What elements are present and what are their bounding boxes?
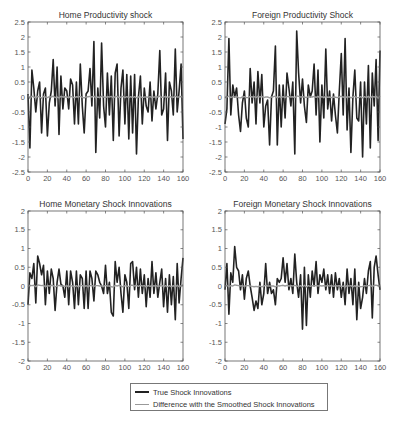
x-tick-label: 20 (240, 363, 248, 372)
x-tick-label: 80 (298, 363, 306, 372)
y-tick-label: -1 (215, 123, 222, 132)
series-true-shock (225, 31, 380, 157)
x-tick-label: 160 (374, 363, 387, 372)
legend-label: True Shock Innovations (153, 388, 232, 397)
x-tick-label: 140 (157, 174, 170, 183)
x-tick-label: 60 (279, 174, 287, 183)
y-tick-label: 1.5 (212, 225, 222, 234)
y-tick-label: 1.5 (212, 48, 222, 57)
legend-line-dark (135, 391, 149, 393)
y-tick-label: 1 (21, 244, 25, 253)
x-tick-label: 20 (43, 174, 51, 183)
x-tick-label: 120 (138, 174, 151, 183)
y-tick-label: -0.5 (12, 108, 25, 117)
legend-item-difference: Difference with the Smoothed Shock Innov… (135, 398, 315, 410)
x-tick-label: 120 (335, 174, 348, 183)
chart-title: Home Monetary Shock Innovations (39, 199, 171, 209)
x-tick-label: 40 (260, 174, 268, 183)
y-tick-label: 0 (218, 93, 222, 102)
y-tick-label: 1.5 (15, 225, 25, 234)
figure-canvas: Home Productivity shock02040608010012014… (0, 0, 394, 423)
y-tick-label: 0.5 (212, 263, 222, 272)
y-tick-label: 2 (21, 207, 25, 216)
legend-label: Difference with the Smoothed Shock Innov… (153, 400, 315, 409)
y-tick-label: -0.5 (12, 300, 25, 309)
series-difference (225, 96, 380, 98)
x-tick-label: 20 (240, 174, 248, 183)
x-tick-label: 0 (223, 363, 227, 372)
x-tick-label: 140 (157, 363, 170, 372)
x-tick-label: 140 (354, 363, 367, 372)
legend-line-gray (135, 404, 149, 405)
y-tick-label: 1 (218, 63, 222, 72)
y-tick-label: 0.5 (15, 263, 25, 272)
y-tick-label: -2.5 (209, 168, 222, 177)
y-tick-label: -2 (215, 153, 222, 162)
y-tick-label: 0 (218, 282, 222, 291)
y-tick-label: 1 (21, 63, 25, 72)
chart-home-monetary: Home Monetary Shock Innovations020406080… (12, 199, 189, 372)
series-true-shock (225, 247, 380, 330)
x-tick-label: 120 (138, 363, 151, 372)
x-tick-label: 100 (316, 174, 329, 183)
chart-title: Foreign Monetary Shock Innovations (233, 199, 371, 209)
y-tick-label: 0 (21, 93, 25, 102)
chart-title: Home Productivity shock (59, 10, 153, 20)
y-tick-label: -1.5 (12, 338, 25, 347)
x-tick-label: 80 (101, 174, 109, 183)
x-tick-label: 80 (298, 174, 306, 183)
y-tick-label: 0 (21, 282, 25, 291)
y-tick-label: -1 (18, 319, 25, 328)
x-tick-label: 60 (279, 363, 287, 372)
x-tick-label: 100 (119, 174, 132, 183)
x-tick-label: 40 (260, 363, 268, 372)
y-tick-label: -2 (18, 153, 25, 162)
y-tick-label: -0.5 (209, 108, 222, 117)
y-tick-label: 2.5 (15, 18, 25, 27)
y-tick-label: 2 (21, 33, 25, 42)
x-tick-label: 160 (177, 363, 190, 372)
chart-foreign-productivity: Foreign Productivity Shock02040608010012… (209, 10, 386, 183)
chart-home-productivity: Home Productivity shock02040608010012014… (12, 10, 189, 183)
x-tick-label: 0 (26, 363, 30, 372)
y-tick-label: -2.5 (12, 168, 25, 177)
y-tick-label: -1 (215, 319, 222, 328)
x-tick-label: 40 (63, 363, 71, 372)
x-tick-label: 120 (335, 363, 348, 372)
x-tick-label: 40 (63, 174, 71, 183)
y-tick-label: 1.5 (15, 48, 25, 57)
x-tick-label: 0 (26, 174, 30, 183)
x-tick-label: 80 (101, 363, 109, 372)
x-tick-label: 0 (223, 174, 227, 183)
series-difference (225, 285, 380, 287)
y-tick-label: 1 (218, 244, 222, 253)
y-tick-label: -1.5 (12, 138, 25, 147)
legend: True Shock Innovations Difference with t… (130, 383, 328, 411)
y-tick-label: 0.5 (15, 78, 25, 87)
series-true-shock (28, 256, 183, 320)
y-tick-label: -1 (18, 123, 25, 132)
legend-item-true-shock: True Shock Innovations (135, 386, 232, 398)
y-tick-label: -1.5 (209, 138, 222, 147)
x-tick-label: 60 (82, 363, 90, 372)
y-tick-label: 2 (218, 207, 222, 216)
x-tick-label: 100 (119, 363, 132, 372)
x-tick-label: 160 (177, 174, 190, 183)
x-tick-label: 20 (43, 363, 51, 372)
y-tick-label: 2 (218, 33, 222, 42)
y-tick-label: -2 (215, 357, 222, 366)
y-tick-label: 2.5 (212, 18, 222, 27)
x-tick-label: 160 (374, 174, 387, 183)
x-tick-label: 140 (354, 174, 367, 183)
y-tick-label: -0.5 (209, 300, 222, 309)
x-tick-label: 60 (82, 174, 90, 183)
y-tick-label: -2 (18, 357, 25, 366)
chart-foreign-monetary: Foreign Monetary Shock Innovations020406… (209, 199, 386, 372)
y-tick-label: 0.5 (212, 78, 222, 87)
chart-title: Foreign Productivity Shock (252, 10, 354, 20)
y-tick-label: -1.5 (209, 338, 222, 347)
x-tick-label: 100 (316, 363, 329, 372)
